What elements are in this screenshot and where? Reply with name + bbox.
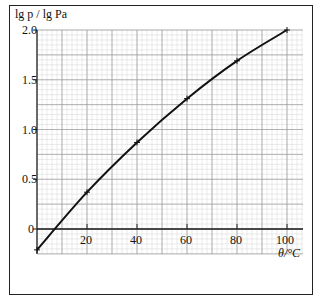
x-tick-label: 60 <box>180 234 192 246</box>
y-tick-label: 0.5 <box>22 173 37 185</box>
x-tick-label: 40 <box>130 234 142 246</box>
y-tick-label: 0 <box>28 223 34 235</box>
y-tick-label: 1.0 <box>22 124 37 136</box>
y-tick-label: 1.5 <box>22 74 37 86</box>
y-axis-label: lg p / lg Pa <box>15 8 67 20</box>
x-axis-label: θ/°C <box>278 247 300 259</box>
x-tick-label: 100 <box>276 234 294 246</box>
x-tick-label: 80 <box>230 234 242 246</box>
x-tick-label: 20 <box>80 234 92 246</box>
y-tick-label: 2.0 <box>22 24 37 36</box>
